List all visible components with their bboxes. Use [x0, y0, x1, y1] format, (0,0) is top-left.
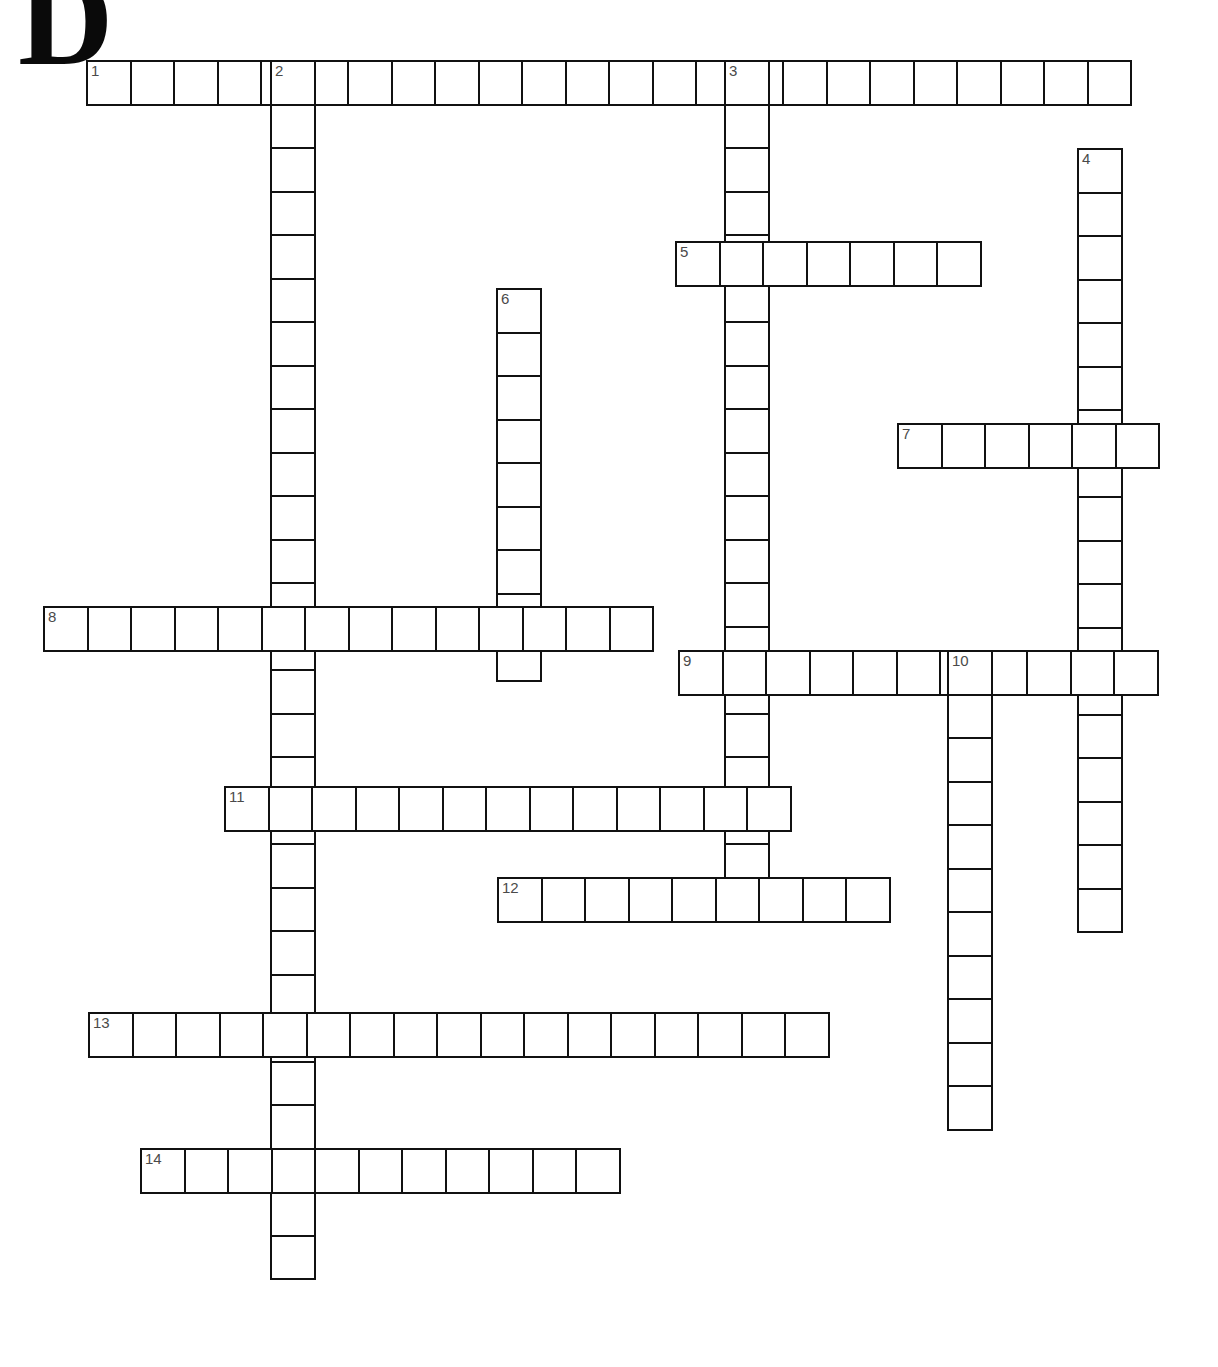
crossword-cell[interactable]	[697, 1012, 743, 1058]
crossword-cell[interactable]	[659, 786, 705, 832]
crossword-cell[interactable]	[1077, 322, 1123, 368]
crossword-cell[interactable]	[270, 669, 316, 715]
crossword-cell[interactable]	[401, 1148, 447, 1194]
crossword-cell[interactable]	[262, 1012, 308, 1058]
crossword-cell[interactable]	[1077, 757, 1123, 803]
crossword-cell[interactable]	[496, 506, 542, 552]
crossword-cell[interactable]	[1077, 366, 1123, 412]
crossword-cell[interactable]	[442, 786, 488, 832]
crossword-cell[interactable]	[608, 60, 654, 106]
crossword-cell[interactable]: 11	[224, 786, 270, 832]
crossword-cell[interactable]	[852, 650, 898, 696]
crossword-cell[interactable]	[217, 606, 263, 652]
crossword-cell[interactable]	[541, 877, 587, 923]
crossword-cell[interactable]: 3	[724, 60, 770, 106]
crossword-cell[interactable]	[719, 241, 765, 287]
crossword-cell[interactable]	[271, 1148, 317, 1194]
crossword-cell[interactable]	[724, 191, 770, 237]
crossword-cell[interactable]	[227, 1148, 273, 1194]
crossword-cell[interactable]	[1077, 844, 1123, 890]
crossword-cell[interactable]	[947, 1042, 993, 1088]
crossword-cell[interactable]	[724, 582, 770, 628]
crossword-cell[interactable]	[1077, 714, 1123, 760]
crossword-cell[interactable]	[355, 786, 401, 832]
crossword-cell[interactable]	[306, 1012, 352, 1058]
crossword-cell[interactable]	[565, 606, 611, 652]
crossword-cell[interactable]	[947, 781, 993, 827]
crossword-cell[interactable]	[174, 606, 220, 652]
crossword-cell[interactable]	[435, 606, 481, 652]
crossword-cell[interactable]	[893, 241, 939, 287]
crossword-cell[interactable]	[496, 419, 542, 465]
crossword-cell[interactable]	[913, 60, 959, 106]
crossword-cell[interactable]	[724, 321, 770, 367]
crossword-cell[interactable]	[175, 1012, 221, 1058]
crossword-cell[interactable]	[609, 606, 655, 652]
crossword-cell[interactable]	[1115, 423, 1161, 469]
crossword-cell[interactable]	[521, 60, 567, 106]
crossword-cell[interactable]	[270, 321, 316, 367]
crossword-cell[interactable]	[1113, 650, 1159, 696]
crossword-cell[interactable]	[173, 60, 219, 106]
crossword-cell[interactable]	[480, 1012, 526, 1058]
crossword-cell[interactable]	[270, 104, 316, 150]
crossword-cell[interactable]: 2	[270, 60, 316, 106]
crossword-cell[interactable]	[956, 60, 1002, 106]
crossword-cell[interactable]: 13	[88, 1012, 134, 1058]
crossword-cell[interactable]	[1077, 583, 1123, 629]
crossword-cell[interactable]	[1028, 423, 1074, 469]
crossword-cell[interactable]	[724, 147, 770, 193]
crossword-cell[interactable]	[270, 1235, 316, 1281]
crossword-cell[interactable]	[445, 1148, 491, 1194]
crossword-cell[interactable]	[947, 998, 993, 1044]
crossword-cell[interactable]	[845, 877, 891, 923]
crossword-cell[interactable]: 12	[497, 877, 543, 923]
crossword-cell[interactable]	[1026, 650, 1072, 696]
crossword-cell[interactable]	[1077, 192, 1123, 238]
crossword-cell[interactable]: 9	[678, 650, 724, 696]
crossword-cell[interactable]	[724, 365, 770, 411]
crossword-cell[interactable]	[947, 824, 993, 870]
crossword-cell[interactable]	[984, 423, 1030, 469]
crossword-cell[interactable]	[936, 241, 982, 287]
crossword-cell[interactable]	[724, 713, 770, 759]
crossword-cell[interactable]	[522, 606, 568, 652]
crossword-cell[interactable]	[1077, 279, 1123, 325]
crossword-cell[interactable]	[802, 877, 848, 923]
crossword-cell[interactable]	[270, 408, 316, 454]
crossword-cell[interactable]	[565, 60, 611, 106]
crossword-cell[interactable]	[1077, 888, 1123, 934]
crossword-cell[interactable]	[567, 1012, 613, 1058]
crossword-cell[interactable]	[270, 191, 316, 237]
crossword-cell[interactable]	[572, 786, 618, 832]
crossword-cell[interactable]	[270, 234, 316, 280]
crossword-cell[interactable]	[616, 786, 662, 832]
crossword-cell[interactable]	[1077, 235, 1123, 281]
crossword-cell[interactable]	[496, 332, 542, 378]
crossword-cell[interactable]	[132, 1012, 178, 1058]
crossword-cell[interactable]	[270, 365, 316, 411]
crossword-cell[interactable]	[1077, 496, 1123, 542]
crossword-cell[interactable]	[947, 955, 993, 1001]
crossword-cell[interactable]	[485, 786, 531, 832]
crossword-cell[interactable]	[741, 1012, 787, 1058]
crossword-cell[interactable]	[941, 423, 987, 469]
crossword-cell[interactable]	[347, 60, 393, 106]
crossword-cell[interactable]	[784, 1012, 830, 1058]
crossword-cell[interactable]	[304, 606, 350, 652]
crossword-cell[interactable]	[349, 1012, 395, 1058]
crossword-cell[interactable]	[130, 60, 176, 106]
crossword-cell[interactable]	[762, 241, 808, 287]
crossword-cell[interactable]	[219, 1012, 265, 1058]
crossword-cell[interactable]	[575, 1148, 621, 1194]
crossword-cell[interactable]	[765, 650, 811, 696]
crossword-cell[interactable]	[87, 606, 133, 652]
crossword-cell[interactable]	[270, 713, 316, 759]
crossword-cell[interactable]	[270, 1104, 316, 1150]
crossword-cell[interactable]	[130, 606, 176, 652]
crossword-cell[interactable]	[270, 278, 316, 324]
crossword-cell[interactable]	[270, 887, 316, 933]
crossword-cell[interactable]	[849, 241, 895, 287]
crossword-cell[interactable]: 14	[140, 1148, 186, 1194]
crossword-cell[interactable]: 10	[947, 650, 993, 696]
